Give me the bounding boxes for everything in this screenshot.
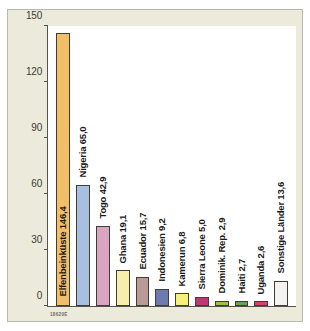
bar-group: Ecuador 15,7	[136, 26, 150, 306]
bar[interactable]	[76, 185, 90, 306]
plot-area: 0306090120150 Elfenbeinküste 146,4Nigeri…	[47, 26, 296, 307]
bar-group: Indonesien 9,2	[155, 26, 169, 306]
bar-label: Ecuador 15,7	[138, 213, 148, 270]
bar[interactable]	[274, 281, 288, 306]
y-axis-tick-label: 150	[26, 10, 48, 21]
bar-label: Indonesien 9,2	[158, 219, 168, 282]
chart-figure: Rohkakaolieferländer Deutschlands Import…	[0, 0, 310, 331]
y-axis-tick-label: 90	[31, 122, 48, 133]
bar[interactable]	[155, 289, 169, 306]
chart-frame: Rohkakaolieferländer Deutschlands Import…	[7, 9, 303, 322]
bar[interactable]	[96, 226, 110, 306]
bar-group: Elfenbeinküste 146,4	[56, 26, 70, 306]
bar-label: Haiti 2,7	[237, 259, 247, 294]
bar[interactable]	[116, 270, 130, 306]
bar-label: Sierra Leone 5,0	[197, 219, 207, 289]
bar-label: Uganda 2,6	[257, 245, 267, 294]
bar[interactable]	[235, 301, 249, 306]
bar-group: Ghana 19,1	[116, 26, 130, 306]
source-code: 18620E	[50, 312, 68, 317]
bar[interactable]	[136, 277, 150, 306]
bar-group: Sierra Leone 5,0	[195, 26, 209, 306]
y-axis-tick-label: 120	[26, 66, 48, 77]
bar-series: Elfenbeinküste 146,4Nigeria 65,0Togo 42,…	[48, 26, 296, 306]
bar-group: Dominik. Rep. 2,9	[215, 26, 229, 306]
bar-label: Ghana 19,1	[118, 215, 128, 264]
bar-group: Kamerun 6,8	[175, 26, 189, 306]
bar-label: Dominik. Rep. 2,9	[217, 218, 227, 294]
bar-label: Nigeria 65,0	[78, 127, 88, 178]
bar-label: Elfenbeinküste 146,4	[59, 206, 69, 296]
y-axis-tick-label: 60	[31, 178, 48, 189]
bar[interactable]	[195, 297, 209, 306]
bar-label: Kamerun 6,8	[177, 231, 187, 286]
bar-group: Haiti 2,7	[235, 26, 249, 306]
bar-group: Togo 42,9	[96, 26, 110, 306]
bar-label: Togo 42,9	[98, 177, 108, 219]
bar[interactable]	[254, 301, 268, 306]
y-axis-tick-label: 0	[37, 290, 48, 301]
bar[interactable]	[175, 293, 189, 306]
bar-group: Nigeria 65,0	[76, 26, 90, 306]
bar-group: Sonstige Länder 13,6	[274, 26, 288, 306]
bar-label: Sonstige Länder 13,6	[276, 182, 286, 274]
bar-group: Uganda 2,6	[254, 26, 268, 306]
bar[interactable]	[215, 301, 229, 306]
y-axis-tick-label: 30	[31, 234, 48, 245]
